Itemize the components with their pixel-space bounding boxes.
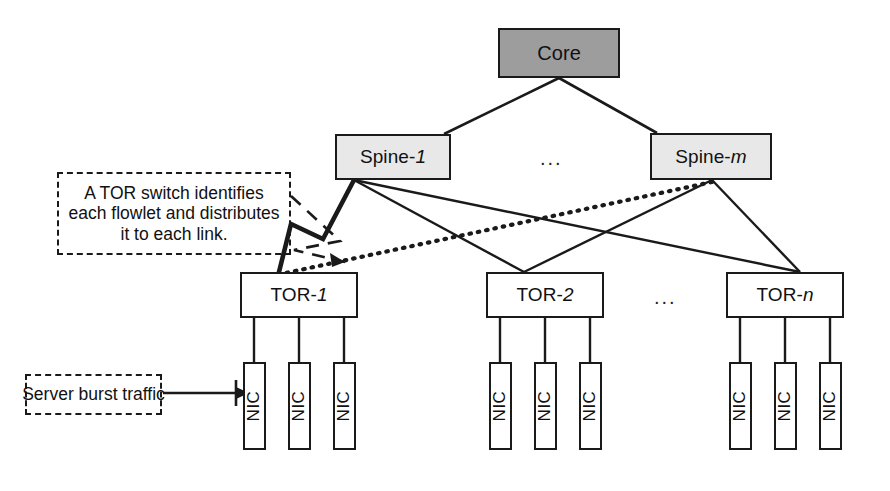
link-spine1-torn	[354, 180, 800, 272]
tor-callout-leader	[291, 196, 345, 267]
node-tor-n-index: n	[803, 284, 814, 305]
node-tor-2-label: TOR-2	[516, 284, 573, 306]
callout-server-burst-text: Server burst traffic	[22, 384, 165, 405]
node-spine-1-label: Spine-1	[360, 146, 426, 168]
callout-tor-switch-line1: A TOR switch identifies	[68, 183, 279, 204]
node-spine-1-index: 1	[415, 146, 426, 167]
node-spine-m[interactable]: Spine-m	[650, 133, 772, 180]
callout-server-burst: Server burst traffic	[25, 374, 162, 415]
node-nic-tor2-1[interactable]: NIC	[489, 362, 512, 450]
node-nic-tor1-3[interactable]: NIC	[333, 362, 356, 450]
network-topology-diagram: Core Spine-1 Spine-m ... TOR-1 TOR-2 TOR…	[0, 0, 890, 491]
node-nic-tor1-2[interactable]: NIC	[288, 362, 311, 450]
node-nic-tor1-3-label: NIC	[335, 391, 355, 422]
spine1-to-tor-links	[278, 180, 800, 276]
spine-row-ellipsis: ...	[540, 148, 563, 168]
node-nic-tor1-1[interactable]: NIC	[243, 362, 266, 450]
node-spine-m-index: m	[731, 146, 747, 167]
node-nic-tor1-2-label: NIC	[290, 391, 310, 422]
node-nic-tor2-3[interactable]: NIC	[579, 362, 602, 450]
node-nic-torn-2[interactable]: NIC	[774, 362, 797, 450]
tor1-nic-stems	[254, 318, 344, 362]
link-spinem-tor2	[524, 180, 712, 272]
link-core-spinem	[559, 78, 657, 133]
link-spine1-tor2	[354, 180, 524, 272]
node-spine-m-label: Spine-m	[675, 146, 746, 168]
node-core[interactable]: Core	[498, 28, 620, 78]
node-nic-torn-3-label: NIC	[821, 391, 841, 422]
node-nic-tor2-1-label: NIC	[491, 391, 511, 422]
callout-tor-switch-text: A TOR switch identifies each flowlet and…	[68, 183, 279, 245]
node-tor-2[interactable]: TOR-2	[486, 272, 604, 318]
spinem-to-tor-links	[281, 180, 800, 274]
tor-row-ellipsis: ...	[654, 287, 677, 307]
node-tor-n[interactable]: TOR-n	[726, 272, 844, 318]
node-core-label: Core	[537, 42, 581, 65]
node-nic-torn-1-label: NIC	[731, 391, 751, 422]
link-spinem-torn	[712, 180, 800, 272]
link-core-spine1	[444, 78, 559, 134]
core-to-spine-links	[444, 78, 657, 134]
node-nic-tor2-2[interactable]: NIC	[534, 362, 557, 450]
node-nic-torn-1[interactable]: NIC	[729, 362, 752, 450]
node-nic-tor2-2-label: NIC	[536, 391, 556, 422]
torn-nic-stems	[740, 318, 830, 362]
node-nic-torn-2-label: NIC	[776, 391, 796, 422]
tor2-nic-stems	[500, 318, 590, 362]
node-nic-torn-3[interactable]: NIC	[819, 362, 842, 450]
node-tor-1[interactable]: TOR-1	[240, 272, 358, 318]
node-tor-2-index: 2	[563, 284, 574, 305]
node-tor-1-label: TOR-1	[270, 284, 327, 306]
node-tor-1-index: 1	[317, 284, 328, 305]
callout-tor-switch-line3: it to each link.	[68, 224, 279, 245]
server-burst-leader	[163, 380, 249, 406]
node-tor-n-label: TOR-n	[756, 284, 813, 306]
node-nic-tor1-1-label: NIC	[245, 391, 265, 422]
callout-tor-switch: A TOR switch identifies each flowlet and…	[57, 172, 291, 255]
callout-tor-switch-line2: each flowlet and distributes	[68, 203, 279, 224]
node-nic-tor2-3-label: NIC	[581, 391, 601, 422]
node-spine-1[interactable]: Spine-1	[335, 134, 451, 180]
